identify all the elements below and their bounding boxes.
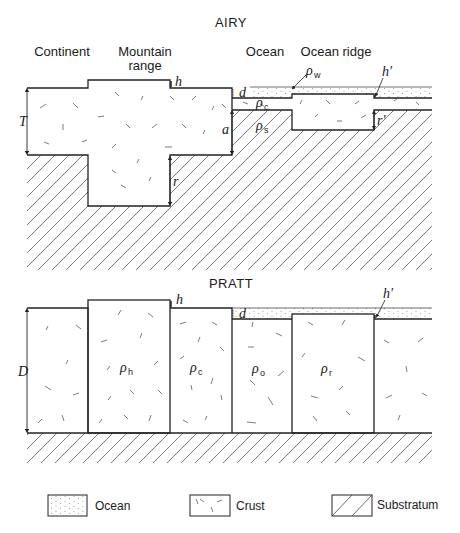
pratt-d-label: d bbox=[239, 306, 247, 321]
svg-text:ρ: ρ bbox=[320, 361, 328, 376]
isostasy-diagram: AIRY Continent Mountain range Ocean Ocea… bbox=[0, 0, 460, 533]
D-label: D bbox=[17, 364, 28, 379]
mountain-label-line1: Mountain bbox=[118, 44, 171, 59]
svg-text:ρ: ρ bbox=[251, 361, 259, 376]
legend: Ocean Crust Substratum bbox=[48, 495, 438, 516]
legend-item-crust: Crust bbox=[190, 495, 265, 516]
svg-text:Crust: Crust bbox=[236, 499, 265, 513]
rho-r-label: ρ r bbox=[320, 361, 332, 378]
svg-text:ρ: ρ bbox=[119, 360, 127, 375]
svg-text:Ocean: Ocean bbox=[95, 499, 130, 513]
svg-text:ρ: ρ bbox=[189, 360, 197, 375]
airy-title: AIRY bbox=[215, 15, 247, 30]
svg-text:c: c bbox=[198, 367, 203, 377]
substratum-swatch bbox=[332, 495, 372, 516]
rho-o-label: ρ o bbox=[251, 361, 265, 378]
d-label: d bbox=[239, 85, 247, 100]
ocean-swatch bbox=[48, 495, 87, 516]
ocean-ridge-label: Ocean ridge bbox=[301, 44, 372, 59]
h-label: h bbox=[175, 74, 182, 89]
legend-item-substratum: Substratum bbox=[332, 495, 438, 516]
ocean-label: Ocean bbox=[246, 44, 284, 59]
pratt-h-label: h bbox=[176, 292, 183, 307]
svg-text:s: s bbox=[264, 125, 269, 135]
svg-text:r: r bbox=[329, 368, 332, 378]
mountain-label-line2: range bbox=[128, 58, 161, 73]
svg-text:ρ: ρ bbox=[305, 63, 313, 78]
rho-w-label: ρ w bbox=[305, 63, 321, 80]
rho-w-leader bbox=[293, 74, 307, 88]
pratt-h-prime-label: h′ bbox=[383, 286, 394, 301]
rho-h-label: ρ h bbox=[119, 360, 133, 377]
crust-swatch bbox=[190, 495, 230, 516]
a-label: a bbox=[222, 122, 229, 137]
pratt-title: PRATT bbox=[209, 276, 253, 291]
pratt-block-ridge bbox=[292, 314, 374, 433]
svg-text:h: h bbox=[128, 367, 133, 377]
r-label: r bbox=[173, 174, 179, 189]
pratt-substratum bbox=[27, 433, 432, 463]
pratt-model: PRATT bbox=[17, 276, 432, 463]
svg-text:o: o bbox=[260, 368, 265, 378]
r-prime-label: r′ bbox=[377, 113, 386, 128]
svg-text:w: w bbox=[313, 70, 321, 80]
rho-c-pratt-label: ρ c bbox=[189, 360, 203, 377]
pratt-block-continent bbox=[27, 308, 88, 433]
airy-ocean-water bbox=[250, 87, 432, 98]
airy-model: AIRY Continent Mountain range Ocean Ocea… bbox=[19, 15, 432, 270]
svg-text:ρ: ρ bbox=[255, 95, 263, 110]
T-label: T bbox=[19, 114, 28, 129]
svg-text:Substratum: Substratum bbox=[377, 498, 438, 512]
svg-text:ρ: ρ bbox=[255, 118, 263, 133]
continent-label: Continent bbox=[34, 44, 90, 59]
legend-item-ocean: Ocean bbox=[48, 495, 130, 516]
svg-text:c: c bbox=[264, 102, 269, 112]
h-prime-label: h′ bbox=[382, 64, 393, 79]
